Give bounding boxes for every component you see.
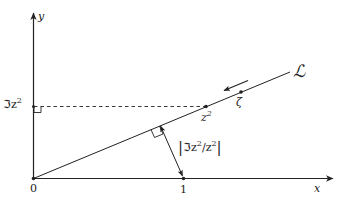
direction-arrow [224,81,248,91]
imag-part-label: ℑz2 [3,96,22,111]
right-angle-marker-axis [34,107,41,113]
z-squared-label: z2 [200,109,212,124]
point-z-squared [204,105,208,109]
y-axis-label: y [37,10,45,23]
unit-label: 1 [180,183,187,196]
zeta-label: ζ [236,96,243,109]
line-L-label: ℒ [293,61,306,81]
point-imag-on-axis [32,105,35,108]
x-axis-label: x [314,182,321,195]
line-L [34,72,291,179]
point-zeta [239,90,243,94]
complex-plane-diagram: y x 0 1 ℒ z2 ζ ℑz2 |ℑz2/z2| [0,0,343,207]
point-one [182,177,186,181]
origin-label: 0 [30,182,37,195]
origin-point [32,177,36,181]
distance-label: |ℑz2/z2| [178,138,222,156]
